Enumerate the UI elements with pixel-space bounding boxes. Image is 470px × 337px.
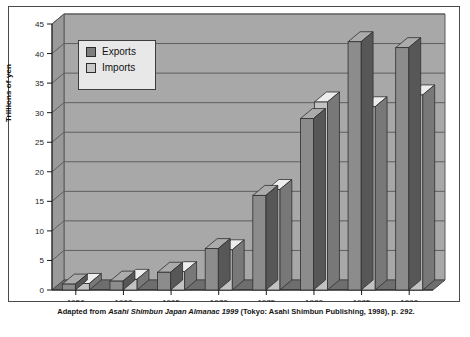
bar-chart-plot: 0510152025303540451956196019651970197519… <box>8 6 460 302</box>
x-tick-label: 1975 <box>257 298 275 302</box>
legend-swatch-exports <box>86 47 96 57</box>
legend-label-exports: Exports <box>102 47 136 57</box>
y-tick-label: 20 <box>35 168 44 177</box>
x-tick-label: 1985 <box>353 298 371 302</box>
figure: Trillions of yen 05101520253035404519561… <box>0 0 470 337</box>
bar-exports-1980 <box>300 109 325 290</box>
x-tick-label: 1980 <box>305 298 323 302</box>
bar-imports-1985-side <box>375 97 387 290</box>
bar-exports-1975-side <box>266 185 278 290</box>
bar-exports-1980-side <box>313 109 325 290</box>
x-tick-label: 1990 <box>400 298 418 302</box>
bar-exports-1990 <box>396 38 421 290</box>
y-tick-label: 5 <box>40 256 45 265</box>
caption-prefix: Adapted from <box>57 307 108 316</box>
bar-exports-1975 <box>253 185 278 290</box>
x-tick-label: 1965 <box>162 298 180 302</box>
caption-suffix: (Tokyo: Asahi Shimbun Publishing, 1998),… <box>238 307 414 316</box>
bar-exports-1975-front <box>253 195 266 290</box>
legend-label-imports: Imports <box>102 63 135 73</box>
bar-exports-1956-front <box>62 284 75 290</box>
bar-exports-1990-front <box>396 48 409 290</box>
y-tick-label: 25 <box>35 138 44 147</box>
bar-imports-1980-side <box>327 92 339 290</box>
y-tick-label: 30 <box>35 109 44 118</box>
bar-exports-1970-front <box>205 249 218 290</box>
y-tick-label: 0 <box>40 286 45 295</box>
x-tick-label: 1960 <box>115 298 133 302</box>
caption-source-title: Asahi Shimbun Japan Almanac 1999 <box>108 307 238 316</box>
bar-exports-1970 <box>205 239 230 290</box>
plot-left-wall <box>52 14 64 290</box>
y-tick-label: 15 <box>35 197 44 206</box>
bar-exports-1980-front <box>300 119 313 290</box>
bar-imports-1975-side <box>280 180 292 290</box>
bar-exports-1985-front <box>348 42 361 290</box>
bar-imports-1990-side <box>423 85 435 290</box>
y-tick-label: 35 <box>35 79 44 88</box>
legend-item-imports: Imports <box>86 63 155 73</box>
chart-legend: Exports Imports <box>78 40 156 90</box>
figure-caption: Adapted from Asahi Shimbun Japan Almanac… <box>56 307 416 317</box>
bar-exports-1985 <box>348 32 373 290</box>
y-tick-label: 45 <box>35 20 44 29</box>
y-tick-label: 40 <box>35 50 44 59</box>
x-tick-label: 1970 <box>210 298 228 302</box>
legend-swatch-imports <box>86 63 96 73</box>
bar-exports-1990-side <box>409 38 421 290</box>
x-tick-label: 1956 <box>67 298 85 302</box>
y-tick-label: 10 <box>35 227 44 236</box>
bar-exports-1985-side <box>361 32 373 290</box>
bar-exports-1960-front <box>110 281 123 290</box>
legend-item-exports: Exports <box>86 47 155 57</box>
bar-exports-1965-front <box>158 272 171 290</box>
